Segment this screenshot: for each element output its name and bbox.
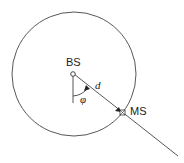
base-station-marker (71, 72, 76, 77)
distance-label: d (95, 80, 101, 91)
distance-line (74, 74, 178, 156)
angle-label: φ (80, 94, 86, 105)
diagram-canvas (0, 0, 184, 163)
base-station-label: BS (66, 57, 81, 68)
mobile-station-label: MS (130, 106, 147, 117)
